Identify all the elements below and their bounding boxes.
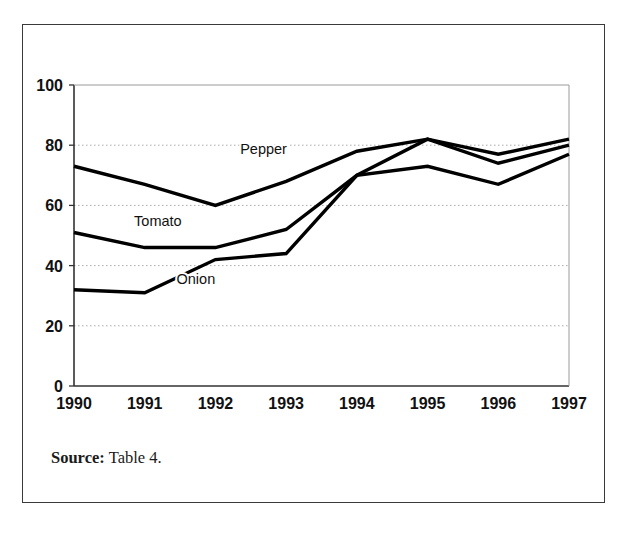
series-label-tomato: Tomato (134, 213, 182, 229)
source-reference: Table 4. (109, 448, 162, 467)
x-tick-label: 1993 (268, 395, 304, 412)
x-tick-label: 1991 (127, 395, 163, 412)
axis-frame (74, 85, 569, 386)
x-tick-label: 1996 (480, 395, 516, 412)
horizontal-gridlines (74, 145, 569, 326)
y-tick-label: 80 (45, 137, 63, 154)
x-axis-tick-labels: 19901991199219931994199519961997 (56, 395, 587, 412)
series-label-onion: Onion (177, 271, 216, 287)
series-line-pepper (74, 139, 569, 205)
y-axis-tick-labels: 020406080100 (36, 77, 74, 395)
x-tick-label: 1997 (551, 395, 587, 412)
figure-frame: 020406080100 199019911992199319941995199… (22, 24, 605, 503)
source-caption: Source:Table 4. (51, 448, 162, 468)
x-tick-label: 1992 (198, 395, 234, 412)
y-tick-label: 60 (45, 197, 63, 214)
x-tick-label: 1990 (56, 395, 92, 412)
series-inline-labels: PepperPepperTomatoTomatoOnionOnion (134, 141, 287, 286)
y-tick-label: 0 (54, 378, 63, 395)
line-chart: 020406080100 199019911992199319941995199… (23, 25, 606, 425)
series-label-pepper: Pepper (240, 141, 287, 157)
source-label: Source: (51, 448, 105, 467)
y-tick-label: 40 (45, 258, 63, 275)
y-tick-label: 100 (36, 77, 63, 94)
y-tick-label: 20 (45, 318, 63, 335)
series-line-tomato (74, 139, 569, 247)
x-tick-label: 1995 (410, 395, 446, 412)
chart-area: 020406080100 199019911992199319941995199… (23, 25, 606, 425)
x-tick-label: 1994 (339, 395, 375, 412)
